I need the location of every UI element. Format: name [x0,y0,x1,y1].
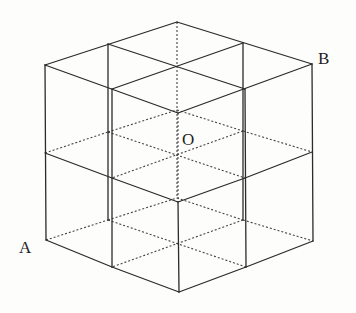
hidden-edge [177,110,243,131]
visible-edge [45,153,112,178]
cube-grid-diagram: A B O [0,0,356,313]
cube-grid-drawing [0,0,356,313]
label-a: A [19,239,31,256]
visible-edge [112,178,178,202]
hidden-edge [177,198,243,220]
visible-edge [178,178,245,202]
hidden-edge [108,110,177,132]
hidden-edge [243,131,312,152]
visible-edge [179,267,246,292]
hidden-edge [243,220,313,241]
visible-edge [46,240,112,267]
visible-edge [178,202,179,292]
hidden-edge [46,220,108,240]
label-o: O [182,131,194,148]
hidden-edge [45,132,108,153]
label-b: B [318,50,329,67]
hidden-edge [108,220,246,267]
visible-edge [246,241,313,267]
visible-edge [45,22,177,65]
hidden-edge [112,220,243,267]
visible-edge [245,152,312,178]
hidden-edge [108,198,177,220]
visible-edge [112,267,179,292]
visible-edge [177,22,312,64]
